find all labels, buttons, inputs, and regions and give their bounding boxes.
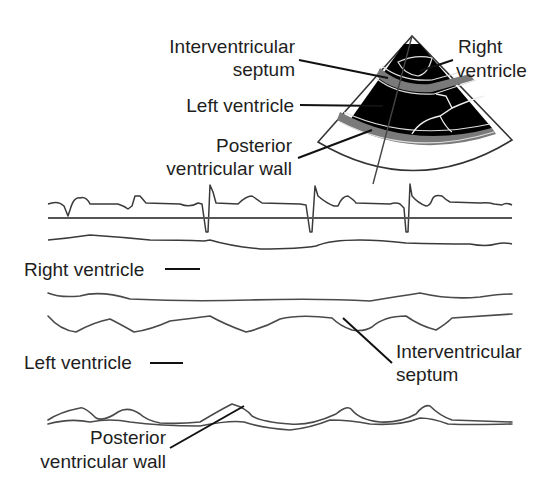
label-sector-septum-line1: Interventricular: [169, 36, 295, 57]
ecg-lower-trace: [48, 235, 512, 249]
label-mmode-left-ventricle: Left ventricle: [24, 352, 132, 373]
leader-sector-septum: [299, 60, 388, 78]
sector-view: [318, 36, 512, 184]
septum-trace: [48, 314, 512, 332]
label-mmode-septum-line2: septum: [396, 364, 458, 385]
leader-mmode-posterior-wall: [170, 406, 244, 448]
label-sector-septum-line2: septum: [233, 59, 295, 80]
mmode-labels: Right ventricle Left ventricle Intervent…: [24, 259, 522, 472]
leader-mmode-septum: [343, 318, 392, 363]
label-sector-posterior-wall-line1: Posterior: [216, 135, 293, 156]
rv-wall-trace: [48, 293, 512, 301]
ecg-section: [48, 184, 512, 249]
label-mmode-posterior-wall-line2: ventricular wall: [40, 451, 166, 472]
label-mmode-right-ventricle: Right ventricle: [24, 259, 144, 280]
label-sector-left-ventricle: Left ventricle: [186, 95, 294, 116]
label-mmode-septum-line1: Interventricular: [396, 341, 522, 362]
label-sector-posterior-wall-line2: ventricular wall: [166, 158, 292, 179]
label-sector-right-ventricle-line2: ventricle: [456, 60, 527, 81]
ecg-trace: [48, 184, 512, 232]
leader-sector-left-ventricle: [300, 105, 383, 106]
label-mmode-posterior-wall-line1: Posterior: [90, 427, 167, 448]
label-sector-right-ventricle-line1: Right: [458, 36, 503, 57]
echocardiogram-figure: Interventricular septum Right ventricle …: [0, 0, 558, 481]
